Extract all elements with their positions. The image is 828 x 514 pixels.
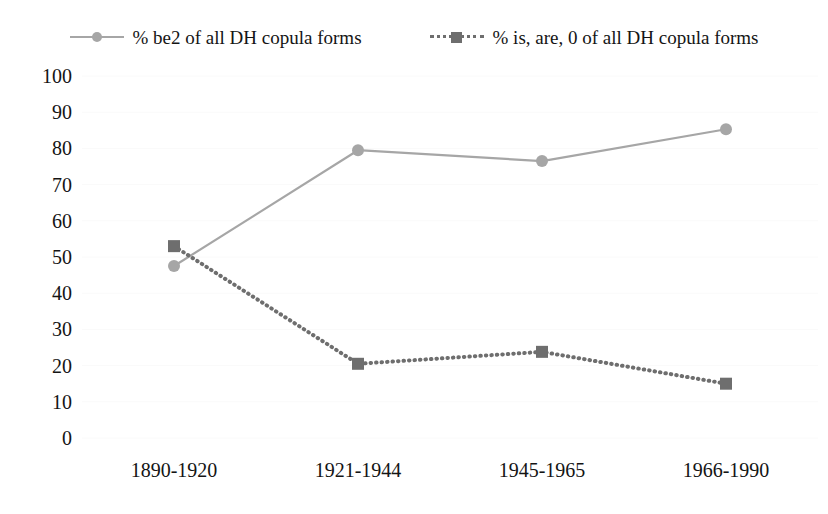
x-axis-tick-label: 1890-1920: [131, 460, 218, 480]
x-axis-tick-label: 1966-1990: [683, 460, 770, 480]
x-axis-tick-label: 1945-1965: [499, 460, 586, 480]
x-axis-tick-label: 1921-1944: [315, 460, 402, 480]
x-axis: 1890-19201921-19441945-19651966-1990: [0, 0, 828, 514]
line-chart: % be2 of all DH copula forms % is, are, …: [0, 0, 828, 514]
plot-area: 1009080706050403020100 1890-19201921-194…: [0, 0, 828, 514]
